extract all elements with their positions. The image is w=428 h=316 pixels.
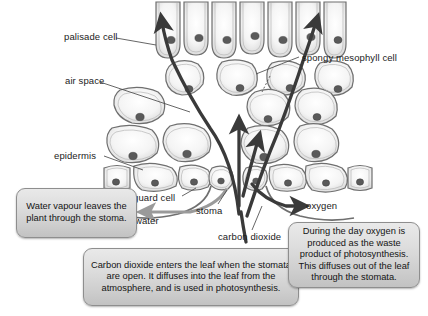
callout-oxygen-text: During the day oxygen is produced as the… bbox=[295, 226, 413, 284]
callout-carbon-dioxide-text: Carbon dioxide enters the leaf when the … bbox=[90, 260, 292, 295]
label-stoma: stoma bbox=[196, 205, 222, 216]
label-palisade-cell: palisade cell bbox=[64, 31, 118, 42]
spongy-mesophyll-layer bbox=[107, 60, 353, 164]
label-water: water bbox=[135, 215, 159, 226]
callout-water-vapour-text: Water vapour leaves the plant through th… bbox=[23, 201, 130, 224]
leader-palisade-cell bbox=[116, 38, 156, 45]
callout-water-vapour: Water vapour leaves the plant through th… bbox=[16, 188, 137, 238]
label-air-space: air space bbox=[65, 75, 104, 86]
label-spongy-mesophyll-cell: spongy mesophyll cell bbox=[302, 52, 397, 63]
palisade-cell-layer bbox=[156, 2, 346, 58]
leader-carbon-dioxide bbox=[252, 206, 262, 230]
label-oxygen: oxygen bbox=[306, 200, 337, 211]
label-carbon-dioxide: carbon dioxide bbox=[218, 231, 281, 242]
label-epidermis: epidermis bbox=[54, 150, 96, 161]
callout-carbon-dioxide: Carbon dioxide enters the leaf when the … bbox=[83, 248, 299, 306]
callout-oxygen: During the day oxygen is produced as the… bbox=[288, 222, 420, 288]
leaf-gas-exchange-diagram: palisade cell air space epidermis guard … bbox=[0, 0, 428, 316]
label-guard-cell: guard cell bbox=[133, 192, 175, 203]
